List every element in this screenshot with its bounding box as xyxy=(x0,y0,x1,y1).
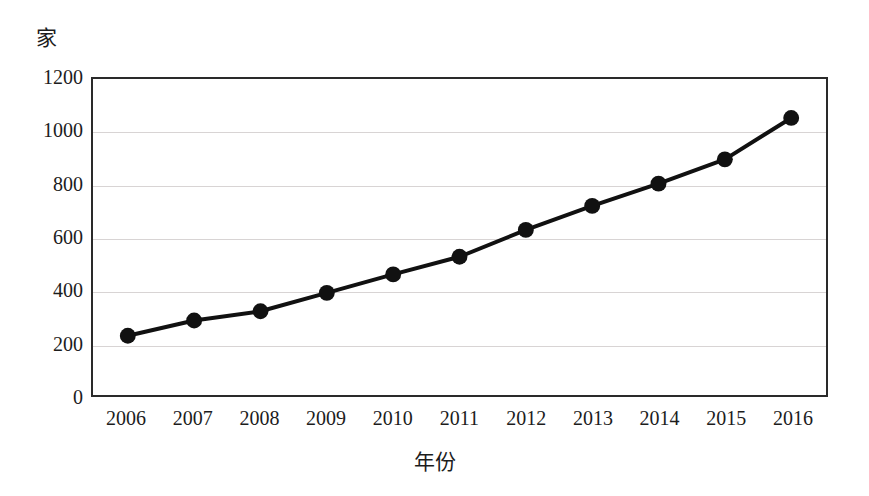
x-axis-tick-labels: 2006200720082009201020112012201320142015… xyxy=(91,406,828,438)
y-axis-tick-labels: 020040060080010001200 xyxy=(0,77,83,397)
x-axis-tick-label: 2016 xyxy=(748,406,838,430)
data-point-marker: 2015: 895 xyxy=(717,151,733,167)
y-axis-tick-label: 600 xyxy=(3,227,83,247)
data-point-marker: 2016: 1052 xyxy=(783,110,799,126)
data-point-marker: 2006: 225 xyxy=(120,328,136,344)
data-point-marker: 2007: 283 xyxy=(186,313,202,329)
y-axis-tick-label: 1000 xyxy=(3,120,83,140)
plot-area: 2006: 2252007: 2832008: 3182009: 3882010… xyxy=(91,77,828,397)
data-point-marker: 2011: 525 xyxy=(452,249,468,265)
y-axis-tick-label: 800 xyxy=(3,174,83,194)
data-point-marker: 2008: 318 xyxy=(253,303,269,319)
chart-container: 家 020040060080010001200 2006: 2252007: 2… xyxy=(0,0,869,496)
data-point-marker: 2009: 388 xyxy=(319,285,335,301)
y-axis-tick-label: 400 xyxy=(3,280,83,300)
y-axis-tick-label: 0 xyxy=(3,387,83,407)
data-point-marker: 2010: 458 xyxy=(385,266,401,282)
series-line xyxy=(128,118,791,336)
y-axis-tick-label: 200 xyxy=(3,334,83,354)
y-axis-tick-label: 1200 xyxy=(3,67,83,87)
series-line-chart: 2006: 2252007: 2832008: 3182009: 3882010… xyxy=(93,79,826,395)
data-point-marker: 2013: 718 xyxy=(584,198,600,214)
x-axis-title: 年份 xyxy=(0,452,869,473)
data-point-marker: 2012: 627 xyxy=(518,222,534,238)
y-axis-unit-label: 家 xyxy=(36,28,57,49)
data-point-marker: 2014: 803 xyxy=(651,176,667,192)
